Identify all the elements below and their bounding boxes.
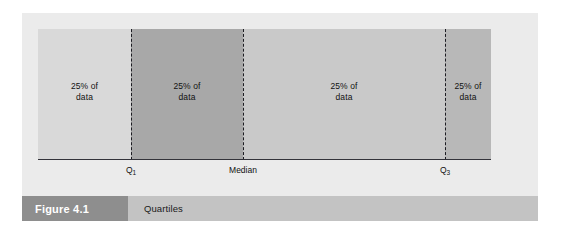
figure-panel: 25% of data 25% of data 25% of data 25% …: [22, 13, 538, 196]
axis-baseline: [38, 159, 491, 160]
divider-q3: [445, 29, 446, 160]
tick-q1-subscript: 1: [133, 169, 137, 176]
tick-label-median: Median: [229, 165, 257, 175]
band-3-label: 25% of data: [243, 81, 445, 103]
figure-number-box: Figure 4.1: [22, 196, 128, 221]
tick-median-text: Median: [229, 165, 257, 175]
tick-label-q1: Q1: [126, 165, 136, 175]
band-4-label: 25% of data: [445, 81, 491, 103]
tick-label-q3: Q3: [440, 165, 450, 175]
quartiles-plot-area: 25% of data 25% of data 25% of data 25% …: [38, 29, 491, 160]
divider-q1: [131, 29, 132, 160]
band-2-label: 25% of data: [131, 81, 243, 103]
tick-q3-subscript: 3: [447, 169, 451, 176]
figure-caption-bar: Figure 4.1 Quartiles: [22, 196, 538, 221]
figure-number-label: Figure 4.1: [35, 203, 89, 215]
figure-title-wrap: Quartiles: [128, 196, 538, 221]
figure-container: 25% of data 25% of data 25% of data 25% …: [0, 0, 562, 234]
quartile-band-1: 25% of data: [38, 29, 131, 160]
band-1-label: 25% of data: [38, 81, 131, 103]
tick-q3-text: Q: [440, 165, 447, 175]
quartile-band-3: 25% of data: [243, 29, 445, 160]
quartile-band-4: 25% of data: [445, 29, 491, 160]
quartile-band-2: 25% of data: [131, 29, 243, 160]
divider-median: [243, 29, 244, 160]
tick-q1-text: Q: [126, 165, 133, 175]
figure-title-label: Quartiles: [144, 203, 183, 214]
